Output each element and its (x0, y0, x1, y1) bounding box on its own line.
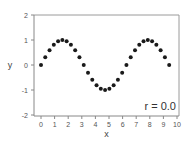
data-point (95, 83, 99, 87)
data-point (159, 48, 163, 52)
y-tick-label: 2 (24, 12, 28, 19)
data-point (103, 88, 107, 92)
data-point (146, 38, 150, 42)
data-point (154, 43, 158, 47)
data-point (163, 55, 167, 59)
data-point (124, 63, 128, 67)
y-tick-label: -2 (22, 112, 28, 119)
x-tick-label: 2 (66, 121, 70, 128)
data-point (99, 87, 103, 91)
data-point (69, 43, 73, 47)
scatter-chart: 210-1-2012345678910xyr = 0.0 (0, 0, 192, 145)
data-point (77, 55, 81, 59)
x-tick-label: 7 (134, 121, 138, 128)
y-tick-label: 0 (24, 62, 28, 69)
x-tick-label: 3 (80, 121, 84, 128)
data-point (90, 78, 94, 82)
data-point (116, 78, 120, 82)
x-tick-label: 10 (173, 121, 181, 128)
x-axis-label: x (104, 129, 109, 139)
x-tick-label: 0 (39, 121, 43, 128)
data-point (73, 48, 77, 52)
data-point (48, 48, 52, 52)
data-point (137, 43, 141, 47)
data-point (120, 71, 124, 75)
data-point (142, 39, 146, 43)
data-point (56, 39, 60, 43)
data-point (43, 55, 47, 59)
data-point (133, 48, 137, 52)
x-tick-label: 4 (93, 121, 97, 128)
y-axis-label: y (8, 60, 13, 70)
y-tick-label: -1 (22, 87, 28, 94)
correlation-annotation: r = 0.0 (145, 100, 177, 112)
x-tick-label: 6 (121, 121, 125, 128)
data-point (39, 63, 43, 67)
data-point (65, 39, 69, 43)
data-point (167, 63, 171, 67)
x-tick-label: 9 (161, 121, 165, 128)
data-point (52, 43, 56, 47)
x-tick-label: 1 (53, 121, 57, 128)
data-point (82, 63, 86, 67)
x-tick-label: 8 (148, 121, 152, 128)
data-point (60, 38, 64, 42)
x-tick-label: 5 (107, 121, 111, 128)
data-point (129, 55, 133, 59)
data-point (86, 71, 90, 75)
y-tick-label: 1 (24, 37, 28, 44)
data-point (112, 83, 116, 87)
data-point (107, 87, 111, 91)
data-point (150, 39, 154, 43)
